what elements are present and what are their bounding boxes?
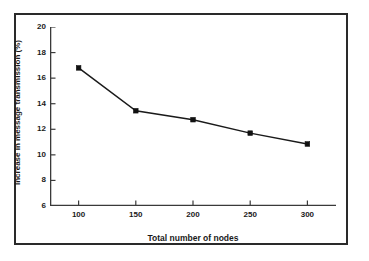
chart-canvas	[50, 27, 336, 206]
figure-container: 68101214161820 100150200250300 Total num…	[0, 0, 369, 261]
x-axis-tick-label: 150	[129, 211, 142, 219]
data-point-marker	[248, 131, 253, 136]
y-axis-tick-label: 10	[28, 151, 46, 159]
x-axis-tick-label: 200	[186, 211, 199, 219]
data-series-line	[79, 68, 308, 144]
x-axis-tick-label: 300	[301, 211, 314, 219]
y-axis-tick-label: 20	[28, 23, 46, 31]
data-point-marker	[76, 66, 81, 71]
y-axis-tick-label: 6	[28, 202, 46, 210]
x-axis-tick-label: 100	[72, 211, 85, 219]
y-axis-title: Increase in message transmission (%)	[13, 28, 22, 198]
y-axis-tick-label: 18	[28, 49, 46, 57]
y-axis-tick-label: 8	[28, 176, 46, 184]
y-axis-tick-label: 14	[28, 100, 46, 108]
data-point-marker	[134, 108, 139, 113]
x-axis-tick-label: 250	[244, 211, 257, 219]
data-point-marker	[191, 117, 196, 122]
y-axis-tick-label: 12	[28, 125, 46, 133]
data-point-marker	[305, 142, 310, 147]
y-axis-tick-label: 16	[28, 74, 46, 82]
plot-area	[50, 27, 336, 206]
x-axis-title: Total number of nodes	[50, 233, 336, 243]
